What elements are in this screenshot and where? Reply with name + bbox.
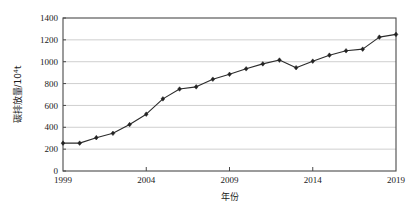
y-tick-label: 600	[45, 101, 59, 111]
y-tick-label: 200	[45, 144, 59, 154]
y-tick-label: 1400	[40, 13, 59, 23]
carbon-emission-line-chart: 0200400600800100012001400 19992004200920…	[0, 0, 413, 215]
x-tick-label: 2004	[137, 175, 156, 185]
x-tick-label: 2009	[221, 175, 240, 185]
x-axis-title: 年份	[221, 191, 239, 202]
x-tick-label: 2019	[387, 175, 406, 185]
x-tick-label: 1999	[54, 175, 73, 185]
y-tick-label: 400	[45, 122, 59, 132]
y-tick-label: 1200	[40, 35, 59, 45]
y-tick-label: 800	[45, 79, 59, 89]
y-tick-label: 1000	[40, 57, 59, 67]
x-tick-label: 2014	[304, 175, 323, 185]
chart-figure: 0200400600800100012001400 19992004200920…	[0, 0, 413, 215]
y-axis-title-text: 碳排放量/104t	[12, 65, 23, 123]
y-axis-title: 碳排放量/104t	[12, 65, 23, 123]
